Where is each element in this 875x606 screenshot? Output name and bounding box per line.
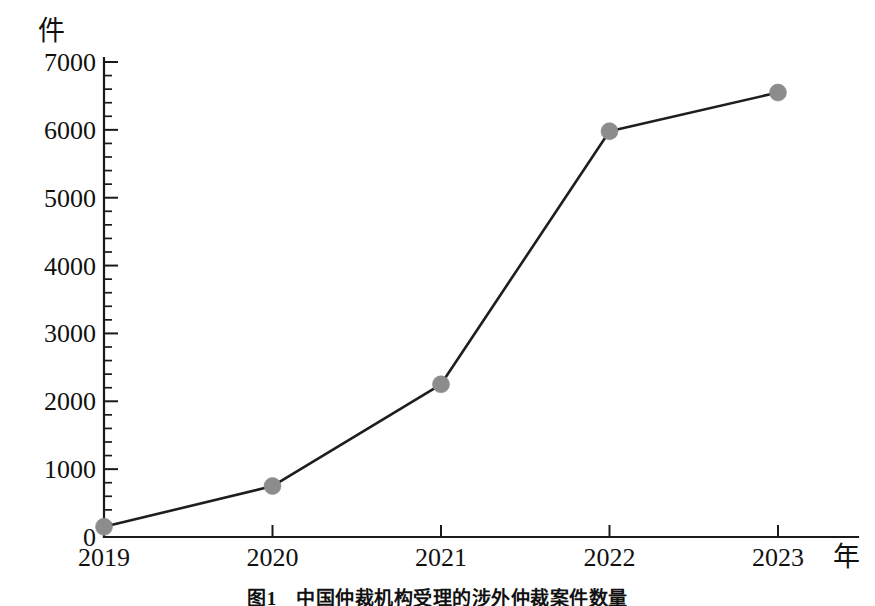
data-series-line xyxy=(104,93,778,527)
x-axis-tick-label: 2019 xyxy=(78,543,130,572)
y-axis-tick-label: 5000 xyxy=(44,184,96,213)
y-axis-tick-label: 3000 xyxy=(44,319,96,348)
y-axis-minor-ticks xyxy=(104,76,112,524)
data-point-marker xyxy=(601,123,618,140)
y-axis-tick-label: 6000 xyxy=(44,116,96,145)
data-point-marker xyxy=(96,518,113,535)
y-axis-tick-label: 1000 xyxy=(44,455,96,484)
x-axis-tick-label: 2023 xyxy=(752,543,804,572)
x-axis-unit-label: 年 xyxy=(833,542,860,572)
x-axis-tick-label: 2021 xyxy=(415,543,467,572)
x-axis-tick-label: 2022 xyxy=(584,543,636,572)
y-axis-major-ticks xyxy=(104,62,118,537)
data-point-marker xyxy=(433,376,450,393)
data-point-marker xyxy=(264,478,281,495)
data-point-markers xyxy=(96,84,787,535)
y-axis-tick-label: 2000 xyxy=(44,387,96,416)
data-point-marker xyxy=(770,84,787,101)
x-axis-tick-label: 2020 xyxy=(247,543,299,572)
y-axis-tick-labels: 01000200030004000500060007000 xyxy=(44,48,96,552)
x-axis-ticks xyxy=(104,525,778,537)
x-axis-tick-labels: 20192020202120222023 xyxy=(78,543,804,572)
y-axis-unit-label: 件 xyxy=(38,16,65,46)
figure-container: 01000200030004000500060007000 2019202020… xyxy=(0,0,875,606)
line-chart: 01000200030004000500060007000 2019202020… xyxy=(0,0,875,606)
y-axis-tick-label: 4000 xyxy=(44,252,96,281)
y-axis-tick-label: 7000 xyxy=(44,48,96,77)
figure-caption: 图1 中国仲裁机构受理的涉外仲裁案件数量 xyxy=(0,586,875,606)
